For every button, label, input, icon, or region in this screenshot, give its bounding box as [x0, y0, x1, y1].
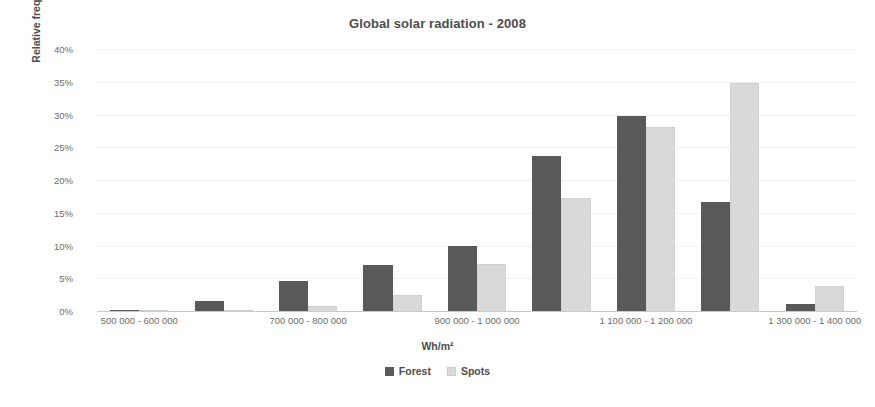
legend-label: Forest [399, 365, 431, 377]
legend-swatch-spots-icon [447, 367, 456, 376]
bar-forest[interactable] [279, 281, 308, 311]
bar-group [701, 49, 759, 311]
legend-item-spots[interactable]: Spots [447, 365, 490, 377]
bar-spots[interactable] [308, 306, 337, 311]
y-axis-tick-label: 15% [33, 207, 73, 218]
bar-forest[interactable] [786, 304, 815, 311]
bar-group [617, 49, 675, 311]
y-axis-tick-label: 35% [33, 76, 73, 87]
bar-group [279, 49, 337, 311]
x-axis-tick-label: 1 300 000 - 1 400 000 [768, 315, 861, 326]
y-axis-tick-label: 30% [33, 109, 73, 120]
legend-item-forest[interactable]: Forest [385, 365, 431, 377]
y-axis-tick-label: 10% [33, 240, 73, 251]
bar-forest[interactable] [110, 310, 139, 311]
bar-forest[interactable] [701, 202, 730, 311]
x-axis-tick-label: 700 000 - 800 000 [270, 315, 347, 326]
y-axis-tick-label: 25% [33, 142, 73, 153]
x-axis-title: Wh/m² [0, 340, 875, 352]
bar-forest[interactable] [448, 246, 477, 311]
y-axis-tick-label: 0% [33, 306, 73, 317]
bar-group [195, 49, 253, 311]
chart-title: Global solar radiation - 2008 [0, 16, 875, 31]
y-axis-tick-label: 40% [33, 44, 73, 55]
bar-spots[interactable] [224, 310, 253, 311]
bar-group [786, 49, 844, 311]
bar-spots[interactable] [646, 127, 675, 311]
chart-container: Global solar radiation - 2008 Relative f… [0, 0, 875, 407]
x-axis-line [97, 311, 857, 312]
x-axis-tick-label: 1 100 000 - 1 200 000 [599, 315, 692, 326]
y-axis-tick-label: 5% [33, 273, 73, 284]
plot-area: 40%35%30%25%20%15%10%5%0% [97, 49, 857, 311]
x-axis-tick-labels: 500 000 - 600 000700 000 - 800 000900 00… [97, 315, 857, 335]
x-axis-tick-label: 500 000 - 600 000 [101, 315, 178, 326]
bar-forest[interactable] [532, 156, 561, 311]
chart-legend: ForestSpots [0, 365, 875, 377]
y-axis-tick-label: 20% [33, 175, 73, 186]
bar-group [110, 49, 168, 311]
bar-group [448, 49, 506, 311]
bar-spots[interactable] [139, 310, 168, 311]
x-axis-tick-label: 900 000 - 1 000 000 [434, 315, 519, 326]
bar-group [532, 49, 590, 311]
bar-forest[interactable] [363, 265, 392, 312]
legend-label: Spots [461, 365, 490, 377]
bar-spots[interactable] [393, 295, 422, 311]
bar-spots[interactable] [561, 198, 590, 311]
bar-forest[interactable] [617, 116, 646, 311]
bar-spots[interactable] [815, 286, 844, 311]
legend-swatch-forest-icon [385, 367, 394, 376]
bar-forest[interactable] [195, 301, 224, 311]
bar-group [363, 49, 421, 311]
bar-spots[interactable] [730, 83, 759, 311]
bar-spots[interactable] [477, 264, 506, 311]
